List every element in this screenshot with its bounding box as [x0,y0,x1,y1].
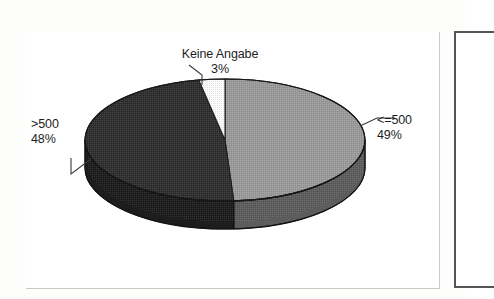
slice-label-gt500: >500 48% [31,117,103,146]
slice-label-keine-angabe-name: Keine Angabe [145,47,295,62]
pie-chart: Keine Angabe 3% <=500 49% >500 48% [25,31,439,288]
slice-label-gt500-name: >500 [31,117,103,132]
adjacent-figure-frame [454,31,494,288]
slice-label-lte500-name: <=500 [377,113,439,128]
slice-label-keine-angabe-percent: 3% [145,62,295,77]
slice-label-lte500-percent: 49% [377,128,439,143]
slice-label-gt500-percent: 48% [31,132,103,147]
pie-top-texture [85,79,365,201]
chart-frame: Keine Angabe 3% <=500 49% >500 48% [25,31,439,288]
slice-label-lte500: <=500 49% [377,113,439,142]
slice-label-keine-angabe: Keine Angabe 3% [145,47,295,76]
